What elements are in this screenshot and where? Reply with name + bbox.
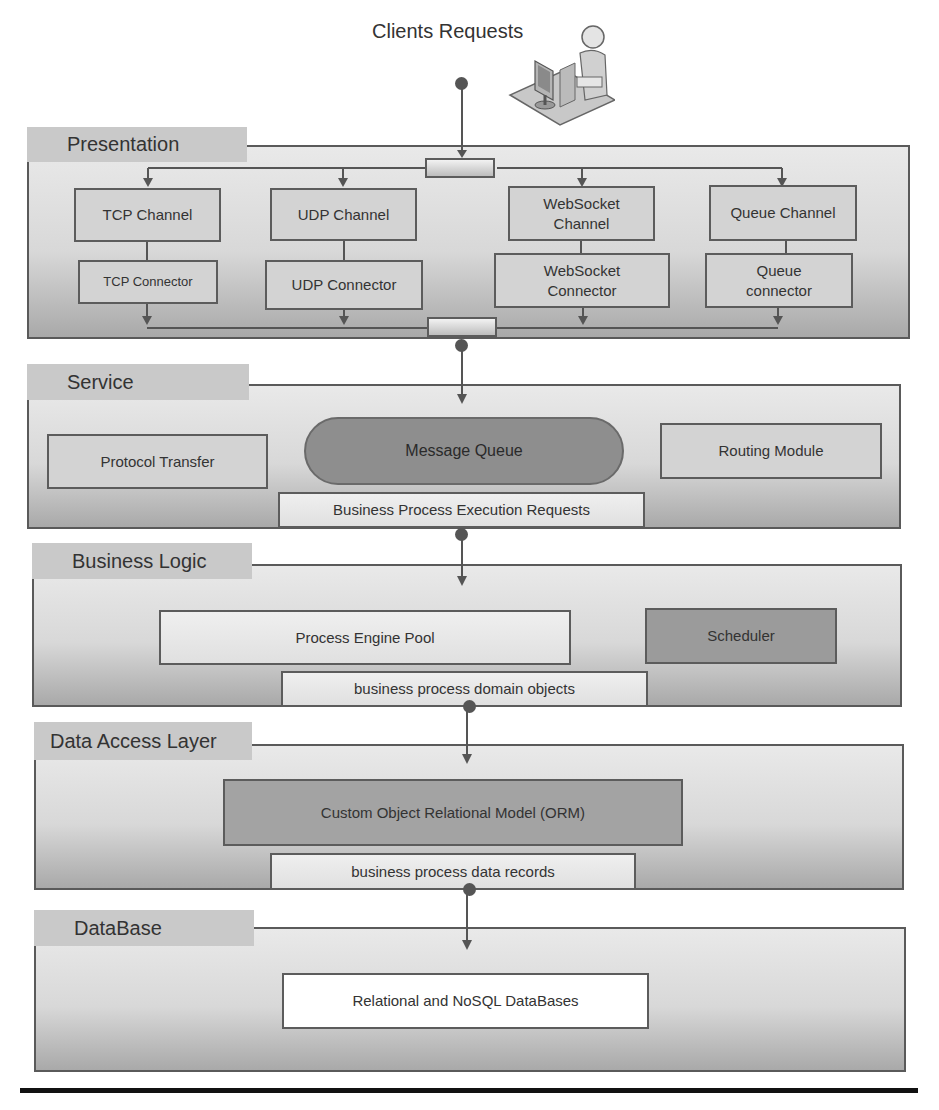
databases-box: Relational and NoSQL DataBases [282,973,649,1029]
database-arrow [0,0,939,1110]
databases-label: Relational and NoSQL DataBases [352,991,578,1011]
bottom-rule [20,1088,918,1093]
